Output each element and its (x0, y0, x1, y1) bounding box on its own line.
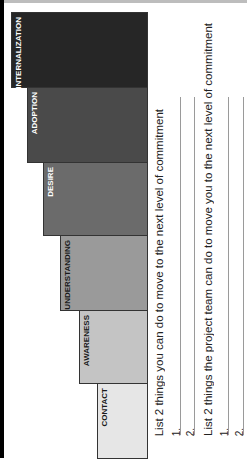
prompt-text: List 2 things the project team can do to… (202, 23, 214, 436)
stage-label: INTERNALIZATION (14, 17, 23, 89)
stage-awareness: AWARENESS (79, 310, 148, 384)
stage-label: AWARENESS (82, 315, 91, 366)
answer-line-1[interactable] (228, 97, 229, 435)
stage-desire: DESIRE (43, 162, 148, 236)
answer-line-2[interactable] (243, 97, 244, 435)
page-edge-left (0, 0, 4, 458)
stage-label: UNDERSTANDING (63, 240, 72, 310)
stage-adoption: ADOPTION (27, 87, 148, 163)
answer-line-1[interactable] (180, 97, 181, 435)
answer-line-2[interactable] (194, 97, 195, 435)
stage-understanding: UNDERSTANDING (60, 235, 148, 311)
stage-label: DESIRE (46, 167, 55, 197)
stage-contact: CONTACT (97, 383, 148, 459)
prompt-text: List 2 things you can do to move to the … (153, 109, 165, 436)
stage-label: CONTACT (100, 388, 109, 427)
page-edge-top (4, 0, 247, 3)
stage-internalization: INTERNALIZATION (11, 12, 148, 88)
stage-label: ADOPTION (30, 92, 39, 134)
